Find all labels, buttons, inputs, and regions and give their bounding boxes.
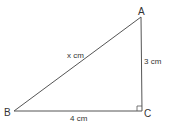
vertex-label-c: C [144,108,151,119]
side-label-ac: 3 cm [144,57,162,66]
right-angle-marker [137,106,142,111]
triangle-diagram: A B C x cm 3 cm 4 cm [0,0,178,133]
triangle-abc [14,17,142,111]
vertex-label-b: B [4,107,11,118]
vertex-label-a: A [138,6,145,17]
side-label-bc: 4 cm [70,114,88,123]
side-label-ab: x cm [67,51,84,60]
